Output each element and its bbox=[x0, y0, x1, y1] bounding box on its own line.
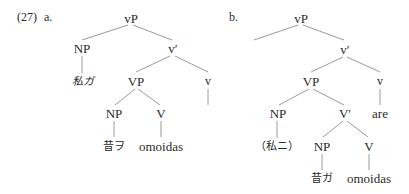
tree-b-subject-term: （私ニ） bbox=[255, 141, 299, 152]
edge-a-vbar-VP bbox=[136, 56, 170, 72]
tree-a-verb-term: omoidas bbox=[139, 140, 183, 153]
edge-b-VP-NP bbox=[279, 89, 309, 105]
tree-b-VP: VP bbox=[303, 75, 320, 88]
edge-b-vbar-v bbox=[347, 57, 380, 72]
edge-a-vbar-v bbox=[175, 56, 208, 72]
edge-b-vP-vbar bbox=[303, 25, 344, 40]
tree-b-vP: vP bbox=[294, 12, 308, 25]
edge-a-VP-NP bbox=[115, 89, 135, 105]
edge-b-VP-Vbar bbox=[313, 89, 344, 105]
edge-a-vP-NP bbox=[82, 25, 128, 40]
edge-a-vP-vbar bbox=[133, 25, 172, 40]
tree-a-vP: vP bbox=[124, 12, 138, 25]
tree-a-NP-object: NP bbox=[106, 107, 123, 120]
tree-edges bbox=[0, 0, 409, 194]
tree-b-label: b. bbox=[229, 11, 238, 23]
edge-b-Vbar-V bbox=[347, 121, 368, 137]
tree-b-V-bar: V′ bbox=[339, 107, 351, 120]
example-number: (27) a. bbox=[17, 11, 52, 23]
edge-b-vP-left bbox=[254, 25, 298, 40]
tree-a-little-v: v bbox=[205, 75, 211, 87]
tree-b-object-term: 昔ガ bbox=[311, 173, 333, 184]
tree-b-little-v-term: are bbox=[372, 107, 388, 120]
tree-b-little-v: v bbox=[377, 75, 383, 87]
tree-b-verb-term: omoidas bbox=[347, 172, 391, 185]
tree-a-VP: VP bbox=[128, 75, 145, 88]
edge-b-vbar-VP bbox=[311, 57, 343, 72]
tree-b-NP-subject: NP bbox=[270, 107, 287, 120]
tree-b-V: V bbox=[364, 140, 373, 153]
tree-a-object-term: 昔ヲ bbox=[103, 141, 125, 152]
tree-b-NP-object: NP bbox=[314, 140, 331, 153]
example-number-text: (27) bbox=[17, 10, 37, 24]
edge-b-Vbar-NP bbox=[323, 121, 343, 137]
edge-a-VP-V bbox=[138, 89, 160, 105]
tree-a-NP-subject: NP bbox=[74, 42, 91, 55]
tree-a-label: a. bbox=[44, 10, 52, 24]
tree-a-V: V bbox=[156, 107, 165, 120]
tree-b-v-bar: v′ bbox=[340, 43, 349, 56]
tree-a-v-bar: v′ bbox=[168, 42, 177, 55]
tree-a-subject-term: 私ガ bbox=[72, 76, 94, 87]
